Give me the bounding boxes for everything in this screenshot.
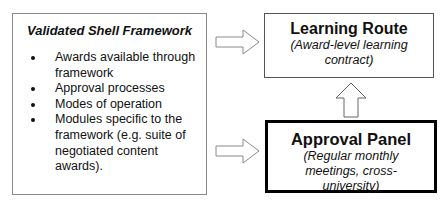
list-item: Approval processes <box>45 81 206 97</box>
learning-route-box: Learning Route (Award-level learning con… <box>264 13 434 78</box>
approval-panel-box: Approval Panel (Regular monthly meetings… <box>265 120 437 193</box>
framework-list: Awards available through framework Appro… <box>13 50 206 175</box>
list-item: Modules specific to the framework (e.g. … <box>45 112 206 174</box>
arrow-right-icon <box>215 137 261 165</box>
learning-route-title: Learning Route <box>265 20 433 38</box>
arrow-up-icon <box>334 82 368 118</box>
arrow-right-icon <box>215 28 261 56</box>
list-item: Modes of operation <box>45 97 206 113</box>
framework-box: Validated Shell Framework Awards availab… <box>12 13 207 195</box>
framework-title: Validated Shell Framework <box>13 23 206 38</box>
learning-route-subtitle: (Award-level learning contract) <box>265 38 433 68</box>
approval-panel-title: Approval Panel <box>268 130 434 149</box>
list-item: Awards available through framework <box>45 50 206 81</box>
approval-panel-subtitle: (Regular monthly meetings, cross-univers… <box>268 149 434 194</box>
